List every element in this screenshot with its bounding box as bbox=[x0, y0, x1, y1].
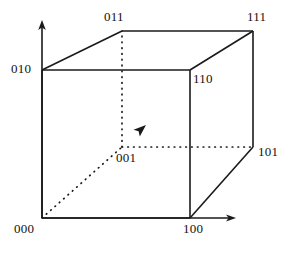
vertex-label-111: 111 bbox=[247, 10, 266, 23]
hidden-edges-group bbox=[42, 31, 253, 218]
vertex-label-101: 101 bbox=[258, 145, 278, 158]
binary-cube-diagram: 010 011 111 110 101 001 000 100 bbox=[0, 0, 295, 254]
edge-100-101 bbox=[190, 147, 253, 218]
edge-000-001 bbox=[42, 147, 122, 218]
vertex-label-001: 001 bbox=[116, 151, 136, 164]
edge-110-111 bbox=[190, 31, 253, 70]
edge-010-011 bbox=[42, 31, 122, 70]
depth-axis-arrowhead bbox=[134, 125, 147, 137]
axes-group bbox=[38, 20, 236, 222]
visible-edges-group bbox=[42, 31, 253, 218]
cube-drawing-canvas bbox=[0, 0, 295, 254]
vertex-label-000: 000 bbox=[14, 222, 34, 235]
vertex-label-010: 010 bbox=[11, 62, 31, 75]
vertex-label-100: 100 bbox=[183, 222, 203, 235]
vertex-label-011: 011 bbox=[104, 10, 124, 23]
vertex-label-110: 110 bbox=[193, 72, 213, 85]
